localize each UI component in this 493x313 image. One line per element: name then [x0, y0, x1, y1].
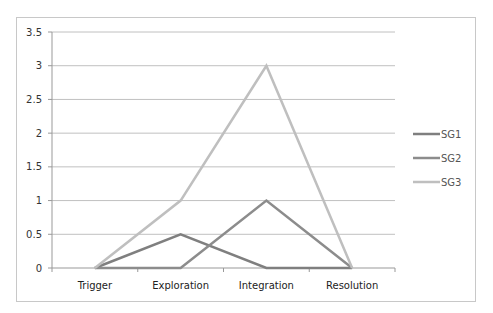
y-tick-label: 2	[36, 128, 42, 139]
legend: SG1SG2SG3	[413, 129, 461, 188]
y-tick-label: 1	[36, 195, 42, 206]
legend-label: SG2	[441, 153, 461, 164]
x-tick-label: Exploration	[152, 280, 209, 291]
legend-label: SG1	[441, 129, 461, 140]
legend-label: SG3	[441, 177, 461, 188]
y-tick-label: 1.5	[26, 161, 42, 172]
y-tick-label: 0	[36, 263, 42, 274]
y-tick-label: 3.5	[26, 27, 42, 38]
line-chart: 00.511.522.533.5 TriggerExplorationInteg…	[0, 0, 493, 313]
x-tick-label: Integration	[239, 280, 294, 291]
x-tick-label: Resolution	[326, 280, 378, 291]
y-tick-label: 2.5	[26, 94, 42, 105]
series-line-sg1	[95, 234, 352, 268]
y-tick-label: 3	[36, 60, 42, 71]
x-axis: TriggerExplorationIntegrationResolution	[52, 268, 395, 291]
y-tick-label: 0.5	[26, 229, 42, 240]
y-axis: 00.511.522.533.5	[26, 27, 52, 274]
x-tick-label: Trigger	[77, 280, 113, 291]
